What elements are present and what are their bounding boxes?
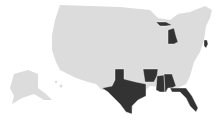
state-florida <box>170 88 198 112</box>
state-mississippi <box>156 75 165 92</box>
us-map <box>0 0 219 122</box>
hawaii <box>55 81 57 83</box>
hawaii-island <box>60 85 63 88</box>
state-new-jersey <box>204 40 208 48</box>
alaska <box>10 70 52 104</box>
